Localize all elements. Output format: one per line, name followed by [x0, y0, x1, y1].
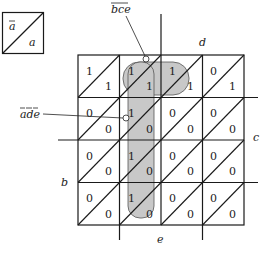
cell-r3c3-lower: 0 [187, 165, 194, 178]
cell-r3c4-upper: 0 [210, 150, 217, 163]
cell-r2c2-lower: 0 [146, 123, 153, 136]
cell-r1c3-upper: 1 [169, 65, 176, 78]
annotation-bce-label: bce [111, 3, 131, 16]
cell-r1c4-upper: 0 [210, 65, 217, 78]
cell-r3c2-upper: 1 [128, 150, 135, 163]
cell-r4c2-lower: 0 [146, 208, 153, 221]
axis-label-b: b [61, 176, 68, 189]
cell-r3c3-upper: 0 [169, 150, 176, 163]
annotation-ade: ade [20, 108, 129, 121]
cell-r1c2-upper: 1 [128, 65, 135, 78]
kmap-grid [58, 14, 258, 240]
cell-r2c3-upper: 0 [169, 107, 176, 120]
axis-label-c: c [253, 131, 259, 144]
legend-upper-label: a [9, 20, 16, 33]
cell-r1c4-lower: 1 [229, 80, 236, 93]
legend-lower-label: a [29, 36, 36, 49]
cell-r3c4-lower: 0 [229, 165, 236, 178]
cell-r4c3-lower: 0 [187, 208, 194, 221]
cell-r4c4-lower: 0 [229, 208, 236, 221]
cell-r1c3-lower: 1 [187, 80, 194, 93]
cell-r4c4-upper: 0 [210, 192, 217, 205]
cell-r3c1-lower: 0 [105, 165, 112, 178]
cell-r4c1-lower: 0 [105, 208, 112, 221]
axis-label-e: e [157, 233, 164, 246]
cell-r4c1-upper: 0 [86, 192, 93, 205]
annotation-ade-label: ade [20, 108, 41, 121]
cell-r3c2-lower: 0 [146, 165, 153, 178]
cell-r1c1-lower: 1 [105, 80, 112, 93]
cell-r2c1-upper: 0 [86, 107, 93, 120]
cell-r1c2-lower: 1 [146, 80, 153, 93]
cell-r1c1-upper: 1 [86, 65, 93, 78]
cell-r4c3-upper: 0 [169, 192, 176, 205]
cell-r3c1-upper: 0 [86, 150, 93, 163]
cell-r2c1-lower: 0 [105, 123, 112, 136]
legend-box: a a [3, 13, 44, 54]
cell-r2c4-upper: 0 [210, 107, 217, 120]
cell-r2c4-lower: 0 [229, 123, 236, 136]
cell-r4c2-upper: 1 [128, 192, 135, 205]
karnaugh-map-diagram: a a [0, 0, 274, 263]
axis-label-d: d [199, 36, 206, 49]
cell-r2c3-lower: 0 [187, 123, 194, 136]
annotation-bce: bce [111, 3, 149, 62]
